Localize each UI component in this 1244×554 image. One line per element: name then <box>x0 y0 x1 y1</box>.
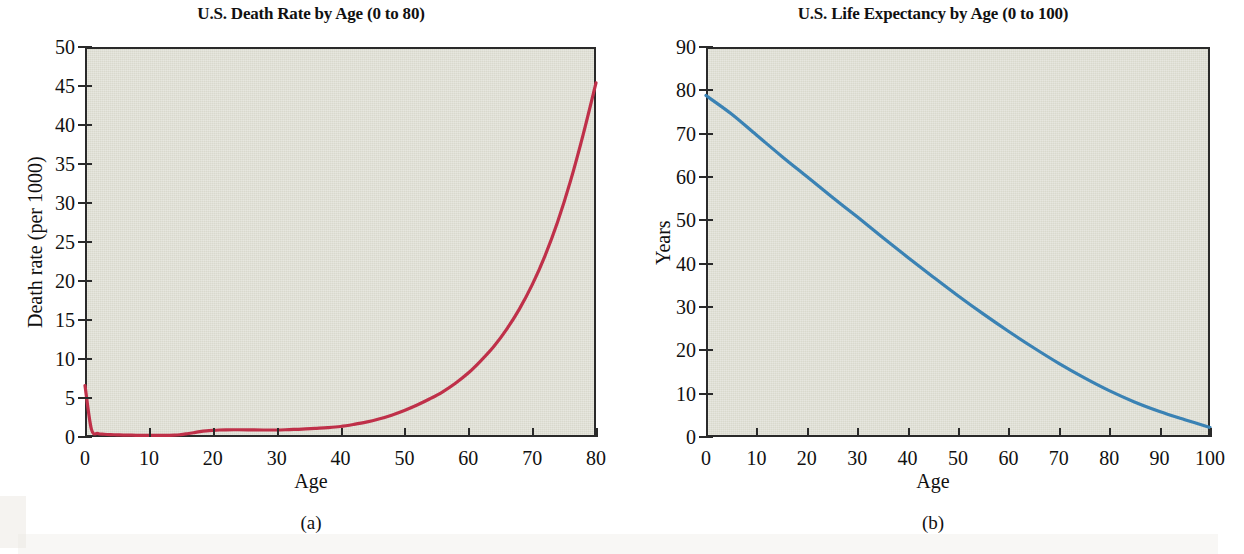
x-tick-label: 50 <box>394 447 414 470</box>
x-tick-mark <box>807 428 809 437</box>
x-tick-label: 0 <box>701 447 711 470</box>
x-tick-mark <box>1059 428 1061 437</box>
y-tick-mark <box>699 219 713 221</box>
y-tick-label: 10 <box>648 382 696 405</box>
x-tick-label: 0 <box>80 447 90 470</box>
x-tick-mark <box>532 428 534 437</box>
y-tick-mark <box>78 202 92 204</box>
y-tick-mark <box>78 124 92 126</box>
y-tick-mark <box>78 397 92 399</box>
y-tick-label: 30 <box>648 296 696 319</box>
y-tick-mark <box>78 241 92 243</box>
y-tick-mark <box>699 89 713 91</box>
x-tick-mark <box>1160 428 1162 437</box>
x-tick-label: 10 <box>139 447 159 470</box>
x-tick-label: 10 <box>746 447 766 470</box>
x-tick-mark <box>85 428 87 437</box>
x-tick-label: 70 <box>522 447 542 470</box>
x-tick-label: 80 <box>1099 447 1119 470</box>
panel-a: U.S. Death Rate by Age (0 to 80) 0510152… <box>0 0 622 554</box>
x-tick-mark <box>706 428 708 437</box>
y-tick-mark <box>699 349 713 351</box>
y-tick-mark <box>699 306 713 308</box>
panel-caption-b: (b) <box>622 512 1244 534</box>
x-tick-label: 20 <box>797 447 817 470</box>
x-tick-mark <box>958 428 960 437</box>
y-tick-label: 0 <box>648 426 696 449</box>
x-tick-mark <box>277 428 279 437</box>
x-tick-mark <box>341 428 343 437</box>
y-tick-label: 0 <box>27 426 75 449</box>
y-tick-mark <box>699 393 713 395</box>
y-tick-mark <box>699 133 713 135</box>
x-tick-label: 100 <box>1195 447 1225 470</box>
y-tick-mark <box>78 280 92 282</box>
y-tick-mark <box>699 46 713 48</box>
x-tick-mark <box>404 428 406 437</box>
x-axis-label-a: Age <box>0 470 622 493</box>
x-tick-mark <box>213 428 215 437</box>
panel-b: U.S. Life Expectancy by Age (0 to 100) 0… <box>622 0 1244 554</box>
y-tick-mark <box>78 85 92 87</box>
x-tick-label: 30 <box>847 447 867 470</box>
y-axis-label-b: Years <box>652 220 675 265</box>
series-line <box>85 83 596 436</box>
x-tick-mark <box>908 428 910 437</box>
x-tick-mark <box>756 428 758 437</box>
panel-caption-a: (a) <box>0 512 622 534</box>
y-tick-mark <box>699 263 713 265</box>
x-tick-mark <box>857 428 859 437</box>
y-tick-mark <box>78 46 92 48</box>
y-tick-mark <box>699 176 713 178</box>
x-tick-label: 60 <box>458 447 478 470</box>
series-line <box>706 96 1210 428</box>
x-tick-mark <box>596 428 598 437</box>
y-tick-label: 80 <box>648 79 696 102</box>
figure-container: U.S. Death Rate by Age (0 to 80) 0510152… <box>0 0 1244 554</box>
x-tick-mark <box>1008 428 1010 437</box>
y-tick-mark <box>78 163 92 165</box>
y-tick-label: 90 <box>648 36 696 59</box>
x-tick-label: 30 <box>267 447 287 470</box>
y-tick-mark <box>78 319 92 321</box>
x-tick-label: 40 <box>331 447 351 470</box>
y-tick-mark <box>78 358 92 360</box>
y-tick-label: 20 <box>648 339 696 362</box>
y-axis-label-a: Death rate (per 1000) <box>24 156 47 328</box>
x-tick-mark <box>1210 428 1212 437</box>
x-tick-mark <box>468 428 470 437</box>
y-tick-label: 10 <box>27 348 75 371</box>
x-tick-label: 50 <box>948 447 968 470</box>
y-tick-label: 70 <box>648 122 696 145</box>
y-tick-label: 45 <box>27 75 75 98</box>
x-tick-label: 80 <box>586 447 606 470</box>
y-tick-label: 60 <box>648 166 696 189</box>
x-tick-label: 40 <box>898 447 918 470</box>
y-tick-label: 40 <box>27 114 75 137</box>
y-tick-label: 5 <box>27 387 75 410</box>
x-tick-label: 70 <box>1049 447 1069 470</box>
x-tick-label: 20 <box>203 447 223 470</box>
x-axis-label-b: Age <box>622 470 1244 493</box>
x-tick-mark <box>1109 428 1111 437</box>
y-tick-label: 50 <box>27 36 75 59</box>
x-tick-label: 90 <box>1150 447 1170 470</box>
x-tick-label: 60 <box>998 447 1018 470</box>
x-tick-mark <box>149 428 151 437</box>
